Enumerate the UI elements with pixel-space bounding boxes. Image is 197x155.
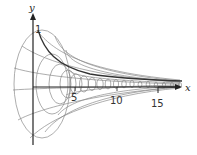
x-axis-label: x	[185, 82, 191, 93]
x-tick-10: 10	[110, 95, 123, 106]
y-tick-1: 1	[35, 24, 41, 35]
y-axis-label: y	[28, 2, 35, 13]
horn-cross-sections	[14, 30, 182, 138]
curve-1-over-x	[38, 30, 182, 81]
horn-diagram: y 1 x 5 10 15	[0, 0, 197, 155]
x-tick-15: 15	[151, 98, 164, 109]
x-tick-5: 5	[71, 92, 77, 103]
